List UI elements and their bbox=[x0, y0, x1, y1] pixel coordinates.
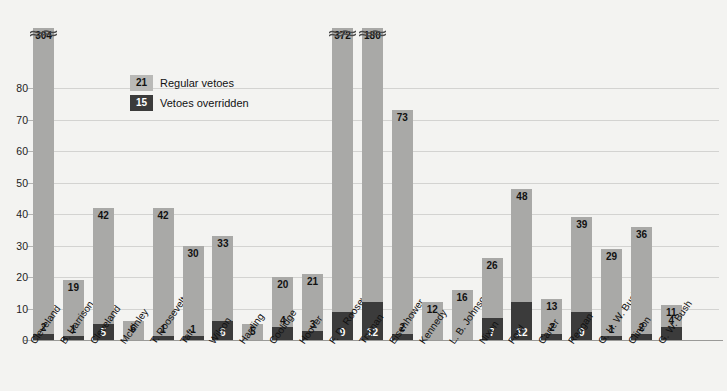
x-axis-label: Taft bbox=[178, 327, 195, 346]
bar-value-regular: 20 bbox=[272, 279, 293, 290]
bar-segment-regular[interactable] bbox=[332, 28, 353, 340]
bar-value-regular: 48 bbox=[511, 191, 532, 202]
axis-break-squiggle bbox=[30, 23, 57, 32]
legend-label-regular: Regular vetoes bbox=[160, 77, 234, 89]
y-tick-label-20: 20 bbox=[0, 272, 28, 282]
bar-value-regular: 16 bbox=[452, 292, 473, 303]
y-tick-label-30: 30 bbox=[0, 241, 28, 251]
y-tick-label-10: 10 bbox=[0, 304, 28, 314]
veto-chart: 010203040506070803042Cleveland191B. Harr… bbox=[0, 0, 727, 391]
bar-value-regular: 30 bbox=[183, 248, 204, 259]
bar-value-regular: 13 bbox=[541, 301, 562, 312]
bar-value-regular: 42 bbox=[93, 210, 114, 221]
bar-value-regular: 73 bbox=[392, 112, 413, 123]
legend-item-vetoes-overridden: 15 Vetoes overridden bbox=[130, 94, 249, 111]
y-tick-label-50: 50 bbox=[0, 178, 28, 188]
bar-value-regular: 29 bbox=[601, 251, 622, 262]
legend-swatch-overridden: 15 bbox=[130, 95, 153, 111]
legend-item-regular-vetoes: 21 Regular vetoes bbox=[130, 74, 249, 91]
chart-legend: 21 Regular vetoes 15 Vetoes overridden bbox=[130, 74, 249, 114]
bar-value-regular: 26 bbox=[482, 260, 503, 271]
bar-value-regular: 42 bbox=[153, 210, 174, 221]
bar-value-regular: 39 bbox=[571, 219, 592, 230]
plot-area: 010203040506070803042Cleveland191B. Harr… bbox=[0, 0, 727, 391]
bar-segment-regular[interactable] bbox=[362, 28, 383, 340]
bar-value-regular: 33 bbox=[212, 238, 233, 249]
bar-segment-regular[interactable] bbox=[33, 28, 54, 340]
bar-value-regular: 21 bbox=[302, 276, 323, 287]
bar-value-regular: 36 bbox=[631, 229, 652, 240]
y-tick-label-80: 80 bbox=[0, 83, 28, 93]
y-tick-label-0: 0 bbox=[0, 335, 28, 345]
axis-break-squiggle bbox=[329, 23, 356, 32]
y-tick-label-60: 60 bbox=[0, 146, 28, 156]
bar-value-regular: 19 bbox=[63, 282, 84, 293]
legend-swatch-regular: 21 bbox=[130, 75, 153, 91]
y-tick-label-70: 70 bbox=[0, 115, 28, 125]
y-tick-label-40: 40 bbox=[0, 209, 28, 219]
axis-break-squiggle bbox=[359, 23, 386, 32]
legend-label-overridden: Vetoes overridden bbox=[160, 97, 249, 109]
